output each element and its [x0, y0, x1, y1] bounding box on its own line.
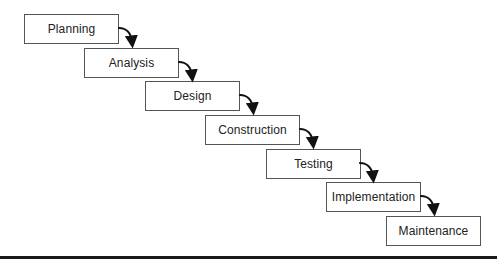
stage-design: Design [145, 81, 240, 111]
stage-implementation: Implementation [326, 182, 421, 212]
arrow-implementation-to-maintenance-icon [421, 196, 434, 210]
arrow-construction-to-testing-icon [300, 129, 313, 143]
arrow-testing-to-implementation-icon [360, 163, 373, 177]
stage-planning: Planning [24, 14, 119, 44]
arrow-analysis-to-design-icon [179, 62, 192, 76]
stage-label: Testing [294, 157, 333, 171]
stage-label: Maintenance [399, 224, 469, 238]
stage-analysis: Analysis [84, 48, 179, 78]
stage-label: Design [174, 89, 212, 103]
stage-testing: Testing [266, 149, 361, 179]
stage-label: Implementation [332, 190, 415, 204]
baseline-divider [0, 256, 497, 259]
stage-construction: Construction [205, 115, 300, 145]
waterfall-diagram: Planning Analysis Design Construction Te… [0, 0, 498, 262]
arrow-design-to-construction-icon [240, 95, 253, 109]
stage-label: Construction [218, 123, 287, 137]
arrow-planning-to-analysis-icon [119, 28, 132, 42]
stage-label: Analysis [109, 56, 154, 70]
stage-maintenance: Maintenance [386, 216, 481, 246]
stage-label: Planning [48, 22, 96, 36]
